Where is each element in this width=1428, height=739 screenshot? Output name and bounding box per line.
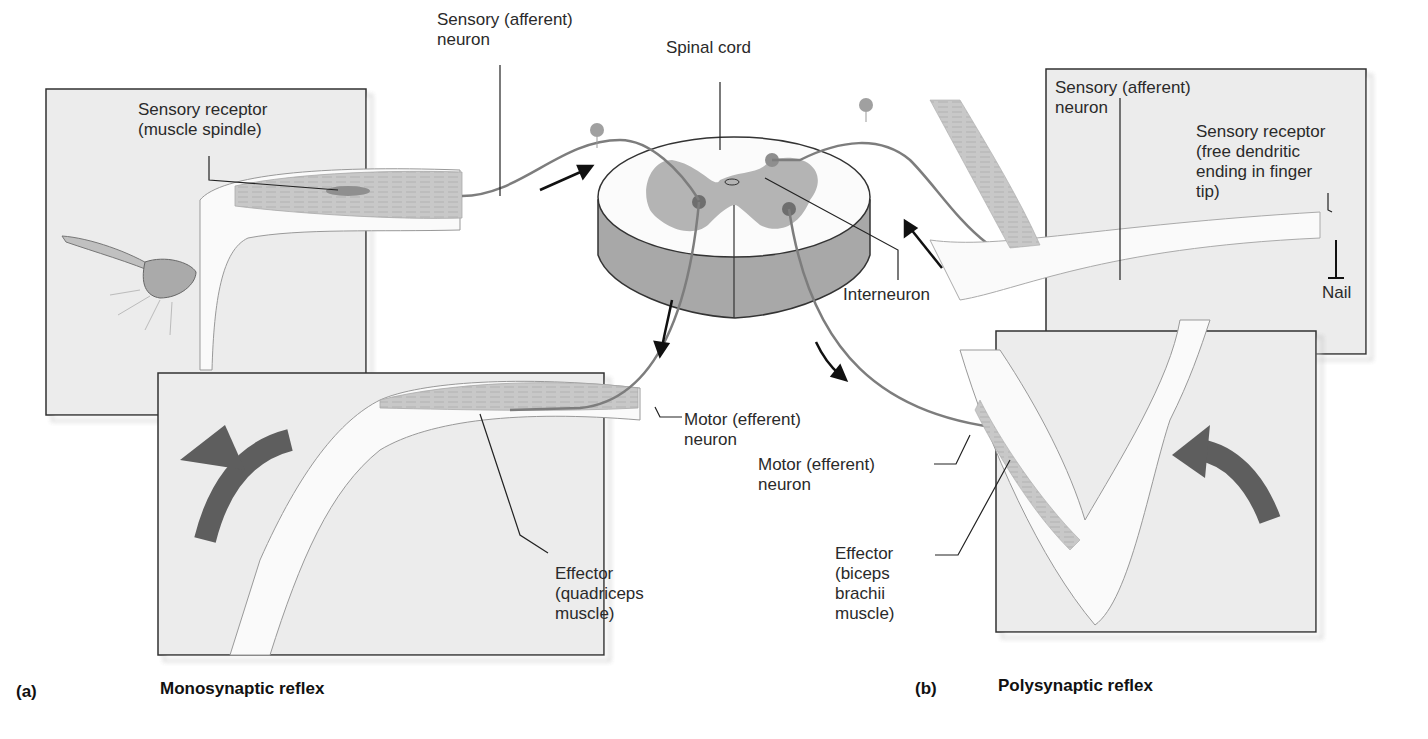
- label-sensory-receptor-a: Sensory receptor(muscle spindle): [138, 100, 267, 140]
- label-sensory-neuron-a: Sensory (afferent)neuron: [437, 10, 573, 50]
- panel-b-letter: (b): [915, 679, 937, 699]
- label-nail: Nail: [1322, 283, 1351, 303]
- label-sensory-receptor-b: Sensory receptor(free dendriticending in…: [1196, 122, 1325, 202]
- label-sensory-neuron-b: Sensory (afferent)neuron: [1055, 78, 1191, 118]
- panel-b-title: Polysynaptic reflex: [998, 676, 1153, 696]
- label-effector-b: Effector(bicepsbrachiimuscle): [835, 544, 895, 624]
- panel-a-title: Monosynaptic reflex: [160, 679, 324, 699]
- spinal-cord-cross-section: [598, 137, 870, 318]
- label-spinal-cord: Spinal cord: [666, 38, 751, 58]
- label-motor-neuron-a: Motor (efferent)neuron: [684, 410, 801, 450]
- panel-b-response-box: [960, 320, 1316, 632]
- panel-a-letter: (a): [16, 682, 37, 702]
- label-effector-a: Effector(quadricepsmuscle): [555, 564, 644, 624]
- label-motor-neuron-b: Motor (efferent)neuron: [758, 455, 875, 495]
- label-interneuron: Interneuron: [843, 285, 930, 305]
